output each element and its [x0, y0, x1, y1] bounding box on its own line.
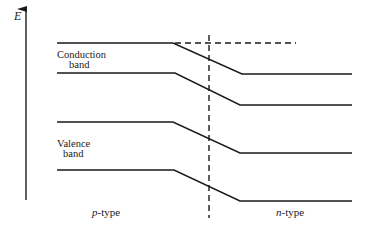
band-lines: [57, 43, 352, 201]
conduction-band-label-line2: band: [69, 59, 90, 70]
p-type-label-rest: -type: [98, 206, 121, 218]
conduction-band-bottom-line: [57, 73, 352, 105]
n-type-label: n-type: [276, 206, 304, 218]
valence-band-bottom-line: [57, 170, 352, 201]
energy-axis-label: E: [13, 9, 22, 23]
valence-band-top-line: [57, 122, 352, 153]
band-diagram: E Conduction band Valence band p-type n-…: [0, 0, 369, 228]
valence-band-label-line2: band: [63, 148, 84, 159]
n-type-label-rest: -type: [282, 206, 305, 218]
p-type-label: p-type: [91, 206, 120, 218]
